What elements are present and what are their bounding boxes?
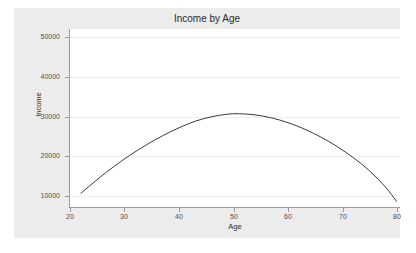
y-tick-mark-10000 xyxy=(65,196,69,197)
x-tick-mark-50 xyxy=(234,208,235,212)
x-tick-label-30: 30 xyxy=(109,213,139,220)
y-axis-line xyxy=(69,29,70,207)
x-tick-mark-40 xyxy=(179,208,180,212)
x-tick-label-20: 20 xyxy=(55,213,85,220)
x-tick-mark-60 xyxy=(288,208,289,212)
y-tick-mark-40000 xyxy=(65,77,69,78)
chart-figure: Income by Age 50000 40000 30000 20000 10… xyxy=(0,0,416,253)
y-tick-label-20000: 20000 xyxy=(20,152,60,159)
x-tick-label-80: 80 xyxy=(382,213,412,220)
x-tick-mark-30 xyxy=(124,208,125,212)
y-tick-label-50000: 50000 xyxy=(20,33,60,40)
x-tick-mark-20 xyxy=(70,208,71,212)
x-tick-label-40: 40 xyxy=(164,213,194,220)
plot-area xyxy=(70,29,400,207)
x-tick-label-50: 50 xyxy=(219,213,249,220)
gridline-20000 xyxy=(70,156,400,157)
y-tick-mark-20000 xyxy=(65,156,69,157)
y-axis-title: Income xyxy=(34,65,43,145)
x-tick-label-70: 70 xyxy=(328,213,358,220)
x-tick-mark-70 xyxy=(343,208,344,212)
gridline-40000 xyxy=(70,77,400,78)
y-tick-label-10000: 10000 xyxy=(20,192,60,199)
gridline-10000 xyxy=(70,196,400,197)
x-tick-mark-80 xyxy=(397,208,398,212)
gridline-50000 xyxy=(70,37,400,38)
y-tick-mark-30000 xyxy=(65,117,69,118)
x-axis-title: Age xyxy=(70,222,400,231)
x-tick-label-60: 60 xyxy=(273,213,303,220)
chart-title: Income by Age xyxy=(14,13,400,24)
gridline-30000 xyxy=(70,117,400,118)
y-tick-mark-50000 xyxy=(65,37,69,38)
